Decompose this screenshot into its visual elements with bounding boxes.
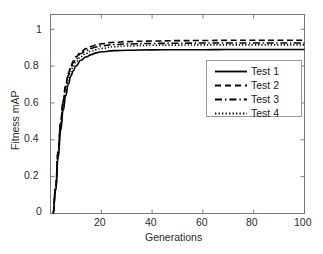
legend-label-1: Test 2 [251,78,279,92]
ytick-label-1: 0.2 [24,170,39,181]
legend-label-2: Test 3 [251,92,279,106]
xtick-label-20: 20 [94,217,106,228]
figure-chart: 0 0.2 0.4 0.6 0.8 1 20 40 60 80 100 Gene… [0,0,323,254]
xtick-label-60: 60 [196,217,208,228]
ytick-label-3: 0.6 [24,97,39,108]
legend-sample-solid [215,70,247,73]
legend-sample-dashed [215,84,247,87]
legend-sample-dashdot [215,98,247,101]
legend-label-3: Test 4 [251,106,279,120]
legend-item-1[interactable]: Test 2 [207,78,303,92]
ytick-label-0: 0 [36,206,42,217]
xtick-label-80: 80 [246,217,258,228]
legend: Test 1 Test 2 Test 3 Test 4 [206,60,302,117]
legend-item-2[interactable]: Test 3 [207,92,303,106]
legend-sample-dotted [215,112,247,115]
legend-label-0: Test 1 [251,64,279,78]
x-axis-title: Generations [145,232,202,243]
ytick-label-5: 1 [36,24,42,35]
legend-item-3[interactable]: Test 4 [207,106,303,120]
ytick-label-4: 0.8 [24,60,39,71]
legend-item-0[interactable]: Test 1 [207,64,303,78]
plot-canvas [0,0,323,254]
xtick-label-100: 100 [294,217,312,228]
xtick-label-40: 40 [145,217,157,228]
y-axis-title: Fitness mAP [10,90,21,150]
ytick-label-2: 0.4 [24,133,39,144]
